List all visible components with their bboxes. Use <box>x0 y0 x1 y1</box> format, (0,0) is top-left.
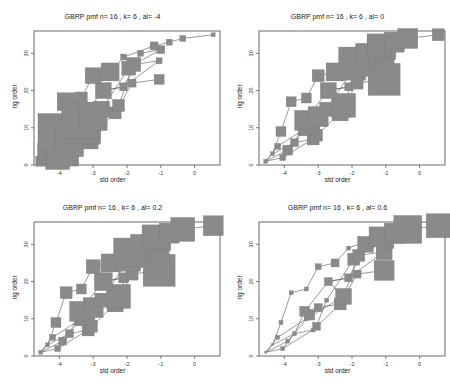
data-point-marker <box>138 50 144 56</box>
x-axis-label: std order <box>0 176 225 183</box>
data-point-marker <box>304 287 308 291</box>
data-point-marker <box>171 217 195 241</box>
chart-panel-al-0: GBRP pmf n= 16 , k= 6 , al= 0 -4-3-2-100… <box>225 0 450 191</box>
x-axis-label: std order <box>0 367 225 374</box>
data-point-marker <box>279 321 283 325</box>
data-point-marker <box>315 264 321 270</box>
data-point-marker <box>180 35 186 41</box>
y-tick-label: 30 <box>248 241 254 247</box>
data-point-marker <box>166 39 172 45</box>
data-point-marker <box>55 346 61 352</box>
data-point-marker <box>331 259 339 267</box>
y-tick-label: 0 <box>248 354 254 357</box>
data-point-marker <box>275 143 281 149</box>
data-point-marker <box>127 58 141 72</box>
data-point-marker <box>150 42 158 50</box>
data-point-marker <box>353 270 361 278</box>
y-tick-label: 30 <box>248 50 254 56</box>
data-point-marker <box>128 79 136 87</box>
y-tick-label: 0 <box>248 163 254 166</box>
data-point-marker <box>51 318 61 328</box>
data-point-marker <box>86 260 100 274</box>
data-point-marker <box>50 334 56 340</box>
data-point-marker <box>59 337 67 345</box>
chart-panel-al-0.2: GBRP pmf n= 16 , k= 6 , al= 0.2 -4-3-2-1… <box>0 191 225 382</box>
chain-line <box>266 226 438 353</box>
data-point-marker <box>345 274 353 282</box>
data-point-marker <box>264 159 268 163</box>
y-tick-label: 20 <box>248 87 254 93</box>
data-point-marker <box>154 74 164 84</box>
data-point-marker <box>286 339 290 343</box>
data-point-marker <box>121 54 127 60</box>
y-tick-label: 10 <box>248 316 254 322</box>
data-point-marker <box>76 284 86 294</box>
data-point-marker <box>300 306 310 316</box>
data-point-marker <box>272 344 274 346</box>
plot-area: -4-3-2-100102030 <box>225 0 450 191</box>
chart-panel-al-neg4: GBRP pmf n= 16 , k= 6 , al= -4 -4-3-2-10… <box>0 0 225 191</box>
y-tick-label: 10 <box>23 125 29 131</box>
chart-panel-al-0.6: GBRP pmf n= 16 , k= 6 , al= 0.6 -4-3-2-1… <box>225 191 450 382</box>
data-point-marker <box>301 93 311 103</box>
data-point-marker <box>289 291 293 295</box>
data-point-marker <box>271 152 275 156</box>
plot-area: -4-3-2-100102030 <box>0 191 225 382</box>
data-point-marker <box>94 101 110 117</box>
data-point-marker <box>286 97 296 107</box>
data-point-marker <box>75 92 87 104</box>
data-point-marker <box>276 127 286 137</box>
chain-line <box>266 241 386 353</box>
data-point-marker <box>312 322 320 330</box>
data-point-marker <box>95 83 111 99</box>
y-axis-label: rig order <box>11 275 18 299</box>
data-point-marker <box>203 216 223 236</box>
x-axis-label: std order <box>225 367 450 374</box>
data-point-marker <box>426 214 450 238</box>
y-tick-label: 10 <box>248 125 254 131</box>
y-tick-label: 30 <box>23 50 29 56</box>
data-point-marker <box>374 260 394 280</box>
data-point-marker <box>280 155 286 161</box>
data-point-marker <box>281 347 285 351</box>
data-point-marker <box>320 83 336 99</box>
y-axis-label: rig order <box>236 275 243 299</box>
x-axis-label: std order <box>225 176 450 183</box>
data-point-marker <box>312 70 324 82</box>
data-point-marker <box>276 335 280 339</box>
data-point-marker <box>398 28 418 48</box>
data-point-marker <box>314 304 322 312</box>
y-tick-label: 30 <box>23 241 29 247</box>
y-axis-label: rig order <box>236 84 243 108</box>
data-point-marker <box>325 298 329 302</box>
data-point-marker <box>66 330 74 338</box>
data-point-marker <box>39 350 43 354</box>
data-point-marker <box>156 58 162 64</box>
data-point-marker <box>336 288 352 304</box>
data-point-marker <box>101 63 119 81</box>
data-point-marker <box>85 68 101 84</box>
data-point-marker <box>60 287 72 299</box>
data-point-marker <box>394 215 422 243</box>
data-point-marker <box>265 351 267 353</box>
plot-area: -4-3-2-100102030 <box>0 0 225 191</box>
chain-line <box>283 241 386 349</box>
y-tick-label: 20 <box>23 87 29 93</box>
data-point-marker <box>94 273 112 291</box>
data-point-marker <box>293 332 297 336</box>
y-tick-label: 0 <box>23 163 29 166</box>
y-tick-label: 0 <box>23 354 29 357</box>
data-point-marker <box>324 278 332 286</box>
data-point-marker <box>120 83 128 91</box>
y-axis-label: rig order <box>11 84 18 108</box>
data-point-marker <box>347 246 351 250</box>
data-point-marker <box>432 29 444 41</box>
data-point-marker <box>113 99 125 111</box>
plot-area: -4-3-2-100102030 <box>225 191 450 382</box>
y-tick-label: 20 <box>248 278 254 284</box>
data-point-marker <box>211 33 215 37</box>
data-point-marker <box>46 343 50 347</box>
data-point-marker <box>291 139 299 147</box>
y-tick-label: 10 <box>23 316 29 322</box>
y-tick-label: 20 <box>23 278 29 284</box>
